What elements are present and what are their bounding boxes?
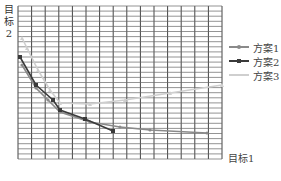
legend-label: 方案1: [253, 40, 279, 55]
y-axis-label-char: 目: [2, 4, 16, 16]
legend-triangle-marker-icon: [229, 71, 249, 79]
legend-item-3: 方案3: [229, 68, 279, 82]
x-axis-label: 目标1: [228, 150, 254, 165]
legend-label: 方案2: [253, 54, 279, 69]
legend: 方案1 方案2 方案3: [229, 40, 279, 82]
legend-item-1: 方案1: [229, 40, 279, 54]
series-lines: [18, 36, 224, 135]
legend-label: 方案3: [253, 68, 279, 83]
y-axis-label: 目 标 2: [2, 4, 16, 40]
legend-square-marker-icon: [229, 57, 249, 65]
legend-dot-marker-icon: [229, 43, 249, 51]
y-axis-label-char: 标: [2, 16, 16, 28]
y-axis-label-char: 2: [2, 28, 16, 40]
grid-lines: [18, 6, 222, 159]
legend-item-2: 方案2: [229, 54, 279, 68]
